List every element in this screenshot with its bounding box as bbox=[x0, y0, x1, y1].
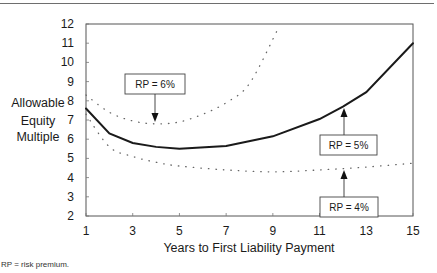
annotation-label: RP = 4% bbox=[329, 202, 369, 213]
y-tick-label: 3 bbox=[67, 190, 74, 204]
x-tick-label: 3 bbox=[129, 224, 136, 238]
x-tick-label: 9 bbox=[270, 224, 277, 238]
annotation-label: RP = 6% bbox=[135, 79, 175, 90]
x-tick-label: 13 bbox=[360, 224, 374, 238]
annotation-6pct: RP = 6% bbox=[125, 74, 185, 122]
y-tick-label: 11 bbox=[62, 36, 75, 50]
series-line-5pct bbox=[86, 43, 413, 149]
arrow-down-icon bbox=[152, 113, 159, 122]
y-axis-label-line-3: Multiple bbox=[16, 130, 59, 144]
x-tick-label: 1 bbox=[83, 224, 90, 238]
y-tick-label: 7 bbox=[67, 113, 74, 127]
arrow-up-icon bbox=[341, 170, 348, 179]
y-axis-label-line-1: Allowable bbox=[11, 96, 65, 110]
x-tick-label: 11 bbox=[313, 224, 326, 238]
annotation-label: RP = 5% bbox=[329, 140, 369, 151]
line-chart: 2345678910111213579111315 RP = 6%RP = 5%… bbox=[0, 0, 437, 273]
y-tick-label: 4 bbox=[67, 171, 74, 185]
plot-frame bbox=[86, 24, 413, 216]
x-tick-label: 15 bbox=[406, 224, 420, 238]
axis-labels: Allowable Equity Multiple Years to First… bbox=[11, 96, 335, 255]
footnote: RP = risk premium. bbox=[1, 260, 69, 269]
y-tick-label: 10 bbox=[61, 55, 75, 69]
y-tick-label: 6 bbox=[67, 132, 74, 146]
y-tick-label: 9 bbox=[67, 75, 74, 89]
chart-annotations: RP = 6%RP = 5%RP = 4% bbox=[125, 74, 378, 217]
annotation-4pct: RP = 4% bbox=[320, 170, 378, 217]
y-axis-label-line-2: Equity bbox=[21, 114, 56, 128]
arrow-up-icon bbox=[341, 108, 348, 117]
x-tick-label: 5 bbox=[176, 224, 183, 238]
y-tick-label: 8 bbox=[67, 94, 74, 108]
x-tick-label: 7 bbox=[223, 224, 230, 238]
x-axis-label: Years to First Liability Payment bbox=[163, 241, 335, 255]
y-tick-label: 12 bbox=[61, 17, 75, 31]
y-tick-label: 2 bbox=[67, 209, 74, 223]
y-tick-label: 5 bbox=[67, 151, 74, 165]
